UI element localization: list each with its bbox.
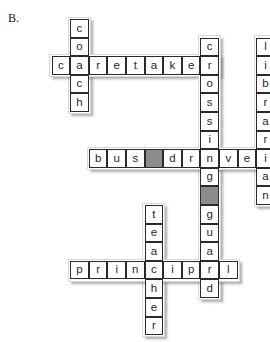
crossword-cell[interactable]: d — [200, 279, 219, 298]
crossword-cell[interactable]: a — [256, 112, 270, 131]
crossword-cell[interactable]: c — [145, 261, 164, 280]
crossword-cell[interactable]: i — [107, 261, 126, 280]
crossword-cell[interactable]: o — [200, 75, 219, 94]
crossword-cell[interactable]: c — [70, 19, 89, 38]
crossword-cell[interactable]: e — [107, 56, 126, 75]
crossword-cell[interactable]: r — [89, 56, 108, 75]
crossword-cell[interactable]: r — [256, 93, 270, 112]
crossword-cell[interactable]: u — [107, 149, 126, 168]
crossword-cell[interactable]: i — [163, 261, 182, 280]
crossword-cell[interactable]: a — [70, 56, 89, 75]
crossword-cell[interactable]: i — [256, 149, 270, 168]
crossword-cell[interactable]: c — [200, 38, 219, 57]
crossword-cell[interactable]: s — [126, 149, 145, 168]
crossword-blank-cell[interactable] — [145, 149, 164, 168]
crossword-cell[interactable]: n — [256, 186, 270, 205]
crossword-cell[interactable]: a — [256, 168, 270, 187]
crossword-cell[interactable]: e — [145, 298, 164, 317]
crossword-cell[interactable]: r — [145, 317, 164, 336]
crossword-cell[interactable]: e — [145, 224, 164, 243]
crossword-cell[interactable]: a — [200, 242, 219, 261]
crossword-grid: coachcretakercossingguardlibrarianbusdrv… — [0, 0, 270, 342]
crossword-cell[interactable]: r — [200, 261, 219, 280]
crossword-cell[interactable]: r — [89, 261, 108, 280]
crossword-cell[interactable]: b — [89, 149, 108, 168]
crossword-cell[interactable]: b — [256, 75, 270, 94]
crossword-cell[interactable]: n — [200, 149, 219, 168]
crossword-cell[interactable]: r — [256, 131, 270, 150]
crossword-cell[interactable]: h — [145, 279, 164, 298]
crossword-cell[interactable]: n — [126, 261, 145, 280]
crossword-cell[interactable]: v — [219, 149, 238, 168]
crossword-cell[interactable]: o — [70, 38, 89, 57]
crossword-blank-cell[interactable] — [200, 186, 219, 205]
crossword-cell[interactable]: e — [238, 149, 257, 168]
crossword-cell[interactable]: i — [256, 56, 270, 75]
crossword-cell[interactable]: s — [200, 112, 219, 131]
crossword-cell[interactable]: t — [126, 56, 145, 75]
crossword-cell[interactable]: i — [200, 131, 219, 150]
crossword-cell[interactable]: r — [200, 56, 219, 75]
crossword-cell[interactable]: p — [182, 261, 201, 280]
crossword-cell[interactable]: a — [145, 242, 164, 261]
crossword-cell[interactable]: k — [163, 56, 182, 75]
crossword-cell[interactable]: p — [70, 261, 89, 280]
crossword-cell[interactable]: l — [219, 261, 238, 280]
crossword-cell[interactable]: g — [200, 205, 219, 224]
crossword-cell[interactable]: u — [200, 224, 219, 243]
crossword-cell[interactable]: l — [256, 38, 270, 57]
crossword-cell[interactable]: d — [163, 149, 182, 168]
crossword-cell[interactable]: t — [145, 205, 164, 224]
crossword-cell[interactable]: h — [70, 93, 89, 112]
crossword-cell[interactable]: e — [182, 56, 201, 75]
crossword-cell[interactable]: s — [200, 93, 219, 112]
crossword-cell[interactable]: c — [52, 56, 71, 75]
crossword-cell[interactable]: c — [70, 75, 89, 94]
crossword-cell[interactable]: r — [182, 149, 201, 168]
crossword-cell[interactable]: a — [145, 56, 164, 75]
crossword-cell[interactable]: g — [200, 168, 219, 187]
